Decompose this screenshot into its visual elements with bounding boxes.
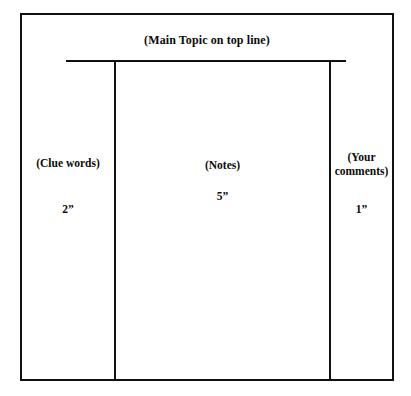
cornell-note-template-figure: (Main Topic on top line) (Clue words) 2”…	[0, 0, 411, 396]
clue-words-label: (Clue words)	[22, 156, 114, 170]
column-divider-left	[114, 62, 116, 381]
notes-label: (Notes)	[116, 158, 329, 172]
clue-words-width-measure: 2”	[22, 203, 114, 215]
your-comments-label-line-2: comments)	[331, 164, 392, 178]
column-divider-right	[329, 62, 331, 381]
main-topic-label: (Main Topic on top line)	[20, 33, 394, 48]
top-line-rule	[66, 60, 346, 62]
your-comments-label: (Your comments)	[331, 150, 392, 178]
your-comments-label-line-1: (Your	[331, 150, 392, 164]
notes-width-measure: 5”	[116, 190, 329, 202]
your-comments-width-measure: 1”	[331, 203, 392, 215]
